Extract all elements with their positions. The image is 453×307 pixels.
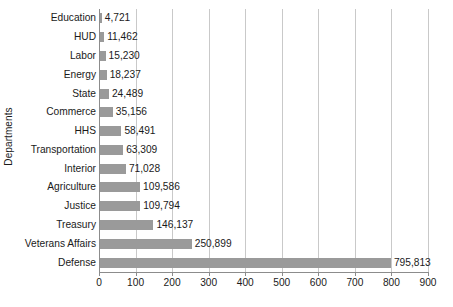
category-label: Treasury [14, 219, 96, 231]
x-tick-mark [282, 272, 283, 276]
category-label: Energy [14, 69, 96, 81]
gridline-500 [282, 9, 283, 272]
category-label: Justice [14, 200, 96, 212]
gridline-0 [99, 9, 100, 272]
bar-chart: Departments EducationHUDLaborEnergyState… [0, 0, 453, 307]
bar [100, 201, 140, 211]
bar [100, 220, 153, 230]
category-label: HHS [14, 125, 96, 137]
category-label: Veterans Affairs [14, 238, 96, 250]
gridline-600 [318, 9, 319, 272]
bar-value-label: 15,230 [109, 50, 140, 62]
x-axis: 0100200300400500600700800900 [99, 272, 429, 298]
category-label: Labor [14, 50, 96, 62]
bar-value-label: 11,462 [107, 31, 137, 43]
gridline-300 [209, 9, 210, 272]
x-tick-mark [391, 272, 392, 276]
x-tick-label: 100 [116, 277, 156, 289]
bar-value-label: 4,721 [105, 12, 131, 24]
gridline-900 [428, 9, 429, 272]
bar [100, 89, 109, 99]
x-tick-label: 800 [371, 277, 411, 289]
x-tick-mark [245, 272, 246, 276]
x-tick-mark [136, 272, 137, 276]
bar [100, 258, 391, 268]
bar [100, 32, 104, 42]
gridline-200 [172, 9, 173, 272]
category-label: Interior [14, 163, 96, 175]
bar [100, 51, 106, 61]
category-label: HUD [14, 31, 96, 43]
bar-value-label: 24,489 [112, 88, 143, 100]
category-label: State [14, 88, 96, 100]
x-tick-mark [172, 272, 173, 276]
x-tick-mark [209, 272, 210, 276]
bar [100, 13, 102, 23]
category-label: Agriculture [14, 181, 96, 193]
bar-value-label: 109,794 [143, 200, 180, 212]
bar-value-label: 71,028 [129, 163, 160, 175]
bar-value-label: 63,309 [126, 144, 157, 156]
x-tick-mark [355, 272, 356, 276]
x-tick-mark [318, 272, 319, 276]
bar-value-label: 795,813 [394, 257, 431, 269]
bar [100, 107, 113, 117]
bar-value-label: 250,899 [195, 238, 232, 250]
x-tick-label: 500 [262, 277, 302, 289]
bar-value-label: 146,137 [156, 219, 193, 231]
bar [100, 182, 140, 192]
category-axis-labels: EducationHUDLaborEnergyStateCommerceHHST… [14, 9, 96, 272]
gridline-700 [355, 9, 356, 272]
x-tick-label: 900 [408, 277, 448, 289]
x-tick-mark [99, 272, 100, 276]
category-label: Commerce [14, 106, 96, 118]
bar [100, 145, 123, 155]
bar-value-label: 109,586 [143, 181, 180, 193]
bar-value-label: 18,237 [110, 69, 141, 81]
category-label: Transportation [14, 144, 96, 156]
bar [100, 239, 192, 249]
x-tick-label: 200 [152, 277, 192, 289]
x-tick-mark [428, 272, 429, 276]
x-tick-label: 400 [225, 277, 265, 289]
x-tick-label: 600 [298, 277, 338, 289]
gridline-800 [391, 9, 392, 272]
category-label: Defense [14, 257, 96, 269]
bar [100, 126, 121, 136]
bar-value-label: 58,491 [124, 125, 155, 137]
gridline-400 [245, 9, 246, 272]
y-axis-title-label: Departments [3, 107, 14, 165]
bar-value-label: 35,156 [116, 106, 147, 118]
gridline-100 [136, 9, 137, 272]
x-tick-label: 300 [189, 277, 229, 289]
x-tick-label: 0 [79, 277, 119, 289]
x-tick-label: 700 [335, 277, 375, 289]
category-label: Education [14, 12, 96, 24]
bar [100, 164, 126, 174]
plot-area: 4,72111,46215,23018,23724,48935,15658,49… [99, 9, 428, 272]
bar [100, 70, 107, 80]
